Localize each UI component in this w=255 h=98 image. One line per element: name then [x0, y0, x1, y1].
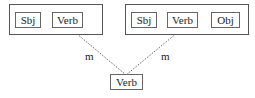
right-sbj-node: Sbj	[131, 12, 157, 28]
right-obj-node: Obj	[211, 12, 240, 28]
bottom-verb-node: Verb	[110, 74, 143, 90]
right-verb-node: Verb	[167, 12, 198, 28]
left-sbj-node: Sbj	[15, 12, 41, 28]
edge-label-left: m	[85, 50, 94, 62]
edge-right-verb-to-bottom-verb	[126, 28, 183, 75]
left-verb-node: Verb	[52, 12, 83, 28]
edge-label-right: m	[161, 50, 170, 62]
edge-left-verb-to-bottom-verb	[70, 28, 126, 75]
